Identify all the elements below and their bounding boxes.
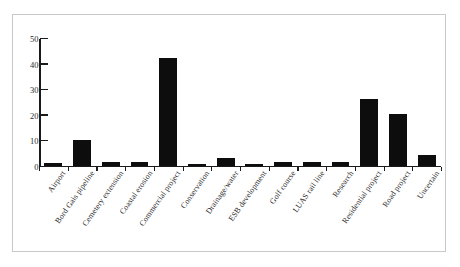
y-tick-label: 20 — [30, 111, 39, 121]
y-tick-mark — [40, 166, 48, 168]
plot-area: 01020304050 — [39, 39, 441, 167]
y-tick-mark — [40, 114, 48, 116]
bar — [303, 162, 321, 166]
x-axis-category-labels: AirportBord Gais pipelineCemetery extens… — [39, 169, 441, 249]
y-tick-mark — [40, 38, 48, 40]
bar — [418, 155, 436, 165]
bar — [274, 162, 292, 166]
x-category-label: Research — [330, 169, 355, 199]
y-tick-label: 30 — [30, 85, 39, 95]
x-category-label: Airport — [46, 169, 67, 194]
bar — [159, 58, 177, 166]
bar — [73, 140, 91, 166]
bar — [332, 162, 350, 166]
x-category-label: Road project — [381, 169, 413, 209]
x-category-label: Golf course — [268, 169, 298, 206]
y-tick-label: 10 — [30, 136, 39, 146]
x-category-label: Conservation — [179, 169, 212, 210]
y-tick-mark — [40, 89, 48, 91]
bar — [245, 164, 263, 165]
x-category-label: Uncertain — [415, 169, 441, 201]
bar — [188, 164, 206, 165]
chart-figure: 01020304050 AirportBord Gais pipelineCem… — [12, 14, 446, 252]
x-tick-mark — [441, 167, 442, 171]
bar — [44, 163, 62, 166]
y-tick-label: 50 — [30, 34, 39, 44]
bar — [217, 158, 235, 166]
bar — [360, 99, 378, 166]
y-tick-mark — [40, 63, 48, 65]
y-axis-line — [39, 39, 41, 167]
bar — [102, 162, 120, 166]
y-tick-label: 40 — [30, 59, 39, 69]
bar — [389, 114, 407, 165]
y-tick-mark — [40, 140, 48, 142]
bar — [131, 162, 149, 166]
